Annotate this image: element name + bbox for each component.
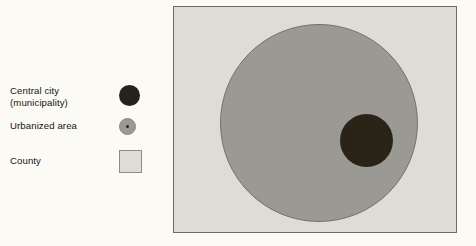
legend-label-central-city: Central city (municipality): [10, 85, 68, 108]
urbanized-area-circle: [220, 24, 418, 222]
urbanized-area-center-dot-icon: [126, 125, 129, 128]
central-city-circle: [340, 114, 393, 167]
county-area-rectangle: [173, 6, 457, 233]
legend-label-urbanized-area: Urbanized area: [10, 120, 77, 132]
county-square-icon: [119, 150, 142, 173]
urbanized-area-circle-icon: [119, 118, 136, 135]
legend-label-county: County: [10, 155, 41, 167]
legend: Central city (municipality) Urbanized ar…: [0, 0, 165, 246]
nested-areas-diagram: Central city (municipality) Urbanized ar…: [0, 0, 476, 246]
central-city-circle-icon: [119, 85, 140, 106]
